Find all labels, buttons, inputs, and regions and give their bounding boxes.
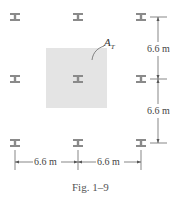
dimension-label-vertical-bottom: 6.6 m bbox=[147, 105, 170, 116]
area-label-main: A bbox=[104, 36, 111, 48]
tributary-area-diagram bbox=[0, 0, 183, 204]
column-icon bbox=[10, 13, 20, 21]
dimension-label-horizontal-right: 6.6 m bbox=[97, 156, 120, 167]
column-icon bbox=[136, 139, 146, 147]
column-icon bbox=[136, 13, 146, 21]
area-label-subscript: T bbox=[111, 43, 115, 51]
column-icon bbox=[73, 13, 83, 21]
dimension-label-vertical-top: 6.6 m bbox=[147, 43, 170, 54]
vertical-dimension bbox=[150, 17, 167, 143]
column-icon bbox=[10, 139, 20, 147]
figure-caption: Fig. 1–9 bbox=[72, 181, 109, 193]
column-icon bbox=[73, 139, 83, 147]
dimension-label-horizontal-left: 6.6 m bbox=[34, 156, 57, 167]
tributary-area bbox=[46, 48, 107, 108]
column-icon bbox=[10, 75, 20, 83]
area-label: AT bbox=[104, 36, 115, 51]
column-icon bbox=[136, 75, 146, 83]
